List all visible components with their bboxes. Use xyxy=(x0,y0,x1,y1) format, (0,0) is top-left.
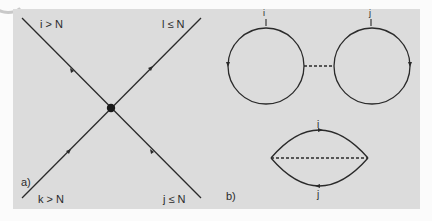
panel-b-lens xyxy=(271,130,368,186)
figure-canvas: i > N l ≤ N k > N j ≤ N a) i j xyxy=(0,0,432,221)
left-loop xyxy=(228,28,304,104)
leg-label-top-right: l ≤ N xyxy=(162,18,185,30)
lens-upper-arc xyxy=(271,130,368,158)
panel-a-label: a) xyxy=(21,176,31,188)
leg-label-bottom-left: k > N xyxy=(38,193,64,205)
right-loop-label: j xyxy=(368,8,371,18)
vertex-dot xyxy=(107,104,115,112)
lens-lower-arc xyxy=(271,158,368,186)
feynman-diagrams: i > N l ≤ N k > N j ≤ N a) i j xyxy=(0,0,432,221)
panel-b-dumbbell xyxy=(228,19,410,104)
arrow-icon xyxy=(315,184,320,188)
panel-b-label: b) xyxy=(226,190,236,202)
right-loop xyxy=(334,28,410,104)
arrow-icon xyxy=(226,62,230,67)
left-loop-label: i xyxy=(263,8,265,18)
arrow-icon xyxy=(408,62,412,67)
lens-bottom-label: j xyxy=(316,189,319,200)
leg-label-top-left: i > N xyxy=(40,18,63,30)
lens-top-label: i xyxy=(317,119,319,130)
leg-label-bottom-right: j ≤ N xyxy=(162,193,186,205)
